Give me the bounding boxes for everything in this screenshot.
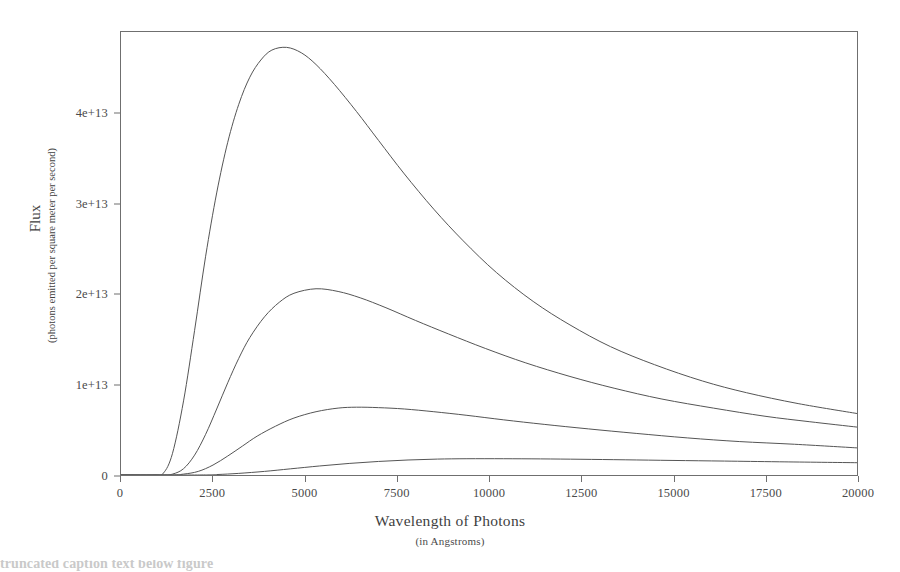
x-tick-label: 5000 xyxy=(292,486,318,501)
x-tick-label: 17500 xyxy=(750,486,782,501)
x-tick-label: 7500 xyxy=(384,486,410,501)
x-axis-title-group: Wavelength of Photons (in Angstroms) xyxy=(0,512,900,547)
spectrum-curve xyxy=(121,459,857,475)
y-tick-label: 4e+13 xyxy=(76,105,108,120)
x-tick-mark xyxy=(397,476,398,482)
spectrum-curve xyxy=(121,289,857,475)
curves-svg xyxy=(121,32,857,475)
y-tick-label: 2e+13 xyxy=(76,287,108,302)
x-tick-mark xyxy=(489,476,490,482)
x-tick-label: 2500 xyxy=(199,486,225,501)
y-axis-title-group: Flux (photons emitted per square meter p… xyxy=(18,0,66,476)
y-tick-mark xyxy=(114,385,120,386)
x-tick-label: 0 xyxy=(117,486,123,501)
figure-caption-strip: truncated caption text below figure xyxy=(0,560,900,572)
x-tick-label: 20000 xyxy=(842,486,874,501)
spectrum-curve xyxy=(121,47,857,475)
x-axis-subtitle: (in Angstroms) xyxy=(0,535,900,547)
spectrum-curve xyxy=(121,407,857,475)
x-tick-mark xyxy=(858,476,859,482)
y-axis-subtitle: (photons emitted per square meter per se… xyxy=(46,121,57,371)
y-tick-mark xyxy=(114,203,120,204)
y-axis-title: Flux xyxy=(27,164,44,274)
x-tick-mark xyxy=(305,476,306,482)
x-tick-label: 12500 xyxy=(565,486,597,501)
y-tick-label: 1e+13 xyxy=(76,378,108,393)
x-tick-mark xyxy=(120,476,121,482)
y-tick-label: 3e+13 xyxy=(76,196,108,211)
x-tick-mark xyxy=(581,476,582,482)
x-tick-label: 15000 xyxy=(657,486,689,501)
plot-area xyxy=(120,31,858,476)
y-tick-mark xyxy=(114,294,120,295)
y-tick-mark xyxy=(114,112,120,113)
figure-caption: truncated caption text below figure xyxy=(0,560,900,572)
x-axis-title: Wavelength of Photons xyxy=(0,512,900,530)
blackbody-spectrum-figure: 01e+132e+133e+134e+13 Flux (photons emit… xyxy=(0,0,900,572)
x-tick-mark xyxy=(766,476,767,482)
y-tick-label: 0 xyxy=(102,469,108,484)
x-axis-ticks: 02500500075001000012500150001750020000 xyxy=(0,486,900,506)
x-tick-mark xyxy=(212,476,213,482)
x-tick-mark xyxy=(674,476,675,482)
x-tick-label: 10000 xyxy=(473,486,505,501)
